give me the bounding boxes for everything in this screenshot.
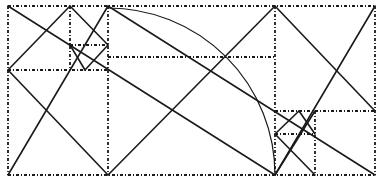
solid-line	[108, 6, 375, 175]
solid-line	[275, 6, 375, 111]
solid-line	[8, 70, 108, 175]
solid-diagonal-lines	[8, 6, 375, 175]
solid-line	[8, 6, 275, 175]
solid-line	[8, 6, 70, 70]
solid-line	[108, 6, 275, 175]
golden-rectangle-diagram	[0, 0, 383, 182]
solid-line	[8, 6, 108, 175]
solid-line	[275, 111, 315, 175]
